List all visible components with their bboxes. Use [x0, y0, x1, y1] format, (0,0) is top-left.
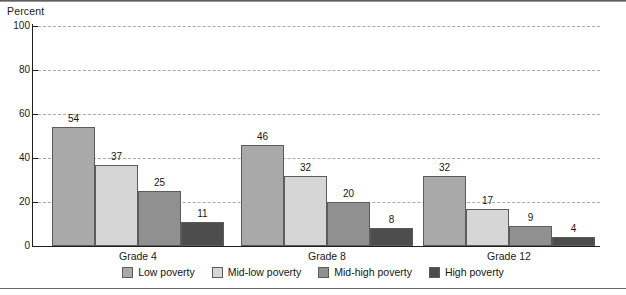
y-tick-label-40: 40: [4, 152, 30, 163]
bar-grade-8-low-poverty[interactable]: [241, 145, 284, 246]
y-tick-label-0: 0: [4, 240, 30, 251]
page-bottom-rule: [0, 288, 626, 289]
bar-value-label: 25: [138, 177, 181, 188]
bar-value-label: 32: [284, 162, 327, 173]
chart-legend: Low povertyMid-low povertyMid-high pover…: [0, 266, 626, 278]
legend-label: Low poverty: [138, 266, 195, 278]
legend-item-low-poverty[interactable]: Low poverty: [122, 266, 195, 278]
bars-layer: 543725114632208321794: [33, 26, 600, 246]
group-label-grade-12: Grade 12: [423, 250, 595, 262]
y-tick-mark-60: [33, 114, 38, 115]
bar-value-label: 32: [423, 162, 466, 173]
y-tick-mark-40: [33, 158, 38, 159]
y-tick-mark-100: [33, 26, 38, 27]
legend-swatch-icon: [429, 267, 440, 278]
y-tick-label-20: 20: [4, 196, 30, 207]
bar-value-label: 8: [370, 214, 413, 225]
bar-grade-12-mid-high-poverty[interactable]: [509, 226, 552, 246]
y-tick-label-60: 60: [4, 108, 30, 119]
y-tick-mark-80: [33, 70, 38, 71]
bar-grade-4-mid-low-poverty[interactable]: [95, 165, 138, 246]
legend-swatch-icon: [122, 267, 133, 278]
bar-value-label: 4: [552, 223, 595, 234]
bar-value-label: 37: [95, 151, 138, 162]
bar-value-label: 11: [181, 208, 224, 219]
legend-item-mid-low-poverty[interactable]: Mid-low poverty: [212, 266, 302, 278]
legend-swatch-icon: [318, 267, 329, 278]
bar-grade-4-high-poverty[interactable]: [181, 222, 224, 246]
bar-value-label: 20: [327, 188, 370, 199]
bar-value-label: 54: [52, 113, 95, 124]
page-top-rule: [0, 0, 626, 2]
legend-swatch-icon: [212, 267, 223, 278]
bar-grade-12-high-poverty[interactable]: [552, 237, 595, 246]
bar-grade-12-low-poverty[interactable]: [423, 176, 466, 246]
bar-value-label: 9: [509, 212, 552, 223]
x-axis-line: [33, 246, 600, 247]
plot-area: 543725114632208321794: [33, 26, 600, 246]
legend-label: High poverty: [445, 266, 504, 278]
bar-grade-8-high-poverty[interactable]: [370, 228, 413, 246]
legend-label: Mid-low poverty: [228, 266, 302, 278]
bar-grade-12-mid-low-poverty[interactable]: [466, 209, 509, 246]
bar-value-label: 46: [241, 131, 284, 142]
bar-grade-4-low-poverty[interactable]: [52, 127, 95, 246]
y-tick-label-80: 80: [4, 64, 30, 75]
bar-grade-4-mid-high-poverty[interactable]: [138, 191, 181, 246]
y-axis-tick-labels: 020406080100: [0, 26, 30, 246]
group-label-grade-4: Grade 4: [52, 250, 224, 262]
legend-item-high-poverty[interactable]: High poverty: [429, 266, 504, 278]
legend-item-mid-high-poverty[interactable]: Mid-high poverty: [318, 266, 412, 278]
y-tick-mark-0: [33, 246, 38, 247]
legend-label: Mid-high poverty: [334, 266, 412, 278]
bar-value-label: 17: [466, 195, 509, 206]
bar-grade-8-mid-high-poverty[interactable]: [327, 202, 370, 246]
group-label-grade-8: Grade 8: [241, 250, 413, 262]
y-tick-mark-20: [33, 202, 38, 203]
y-tick-label-100: 100: [4, 20, 30, 31]
y-axis-title: Percent: [7, 5, 44, 17]
bar-grade-8-mid-low-poverty[interactable]: [284, 176, 327, 246]
